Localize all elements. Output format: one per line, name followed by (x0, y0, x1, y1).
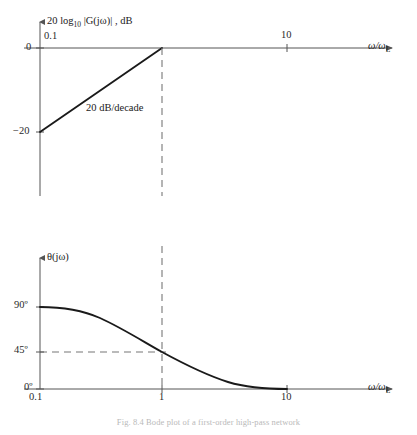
phase-y-axis-label: θ(jω) (47, 252, 69, 263)
magnitude-xtick-label-0-1: 0.1 (44, 31, 57, 42)
phase-xlabel-text: ω/ω (368, 381, 386, 392)
bode-plot-figure: 20 log10 |G(jω)| , dB 0.1 10 0 −20 20 dB… (0, 0, 417, 435)
phase-xtick-label-1: 1 (159, 392, 164, 403)
magnitude-ylabel-subscript: 10 (74, 20, 82, 29)
magnitude-ylabel-mid: |G(jω)| , dB (81, 15, 132, 26)
phase-ytick-label-90: 90º (14, 300, 28, 311)
phase-xlabel-subscript: L (386, 386, 391, 395)
phase-xtick-label-0-1: 0.1 (29, 392, 42, 403)
phase-ytick-label-45: 45º (14, 345, 28, 356)
phase-x-axis-label: ω/ωL (368, 382, 390, 395)
magnitude-ylabel-prefix: 20 log (47, 15, 74, 26)
magnitude-xtick-label-10: 10 (281, 30, 292, 41)
magnitude-y-axis-label: 20 log10 |G(jω)| , dB (47, 16, 132, 29)
phase-xtick-label-10: 10 (281, 392, 292, 403)
magnitude-xlabel-text: ω/ω (368, 40, 386, 51)
phase-plot-group (24, 246, 392, 393)
magnitude-asymptote-line (40, 48, 162, 132)
magnitude-ytick-label-minus-20: −20 (13, 126, 29, 137)
magnitude-x-axis-label: ω/ωL (368, 41, 390, 54)
figure-caption: Fig. 8.4 Bode plot of a first-order high… (0, 417, 417, 427)
phase-response-curve (40, 307, 287, 389)
magnitude-ytick-label-0: 0 (26, 42, 31, 53)
slope-annotation-20db-decade: 20 dB/decade (86, 103, 143, 114)
magnitude-xlabel-subscript: L (386, 45, 391, 54)
magnitude-plot-group (24, 22, 392, 196)
bode-plot-canvas (0, 0, 417, 435)
